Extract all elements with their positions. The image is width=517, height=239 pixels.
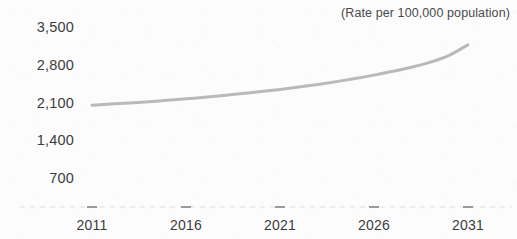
units-annotation: (Rate per 100,000 population) bbox=[341, 6, 510, 20]
x-tick-label: 2011 bbox=[62, 217, 122, 233]
line-chart-figure: 7001,4002,1002,8003,500 2011201620212026… bbox=[0, 0, 517, 239]
x-tick-label: 2031 bbox=[438, 217, 498, 233]
x-tick-label: 2021 bbox=[250, 217, 310, 233]
x-tick-label: 2016 bbox=[156, 217, 216, 233]
x-tick-label: 2026 bbox=[344, 217, 404, 233]
x-axis-tick-labels: 20112016202120262031 bbox=[0, 0, 517, 239]
